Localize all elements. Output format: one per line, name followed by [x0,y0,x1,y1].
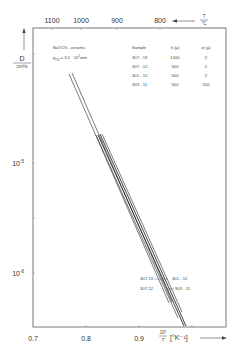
y-tick-label: 10-5 [12,159,24,167]
series-line-303-11 [100,134,186,326]
diffusion-chart: 1100 1000 900 800 T °C D cm²/s 10-5 [0,0,242,356]
plot-frame [33,28,226,327]
legend-table: Sample h (µ) ø (µ) 307 - 13 1000 2 307 -… [132,45,211,87]
line-label: 307-12 [140,286,154,291]
series-line-307-13 [69,74,169,303]
legend-header: h (µ) [171,45,180,50]
data-lines [69,73,186,326]
y-axis-label-den: cm²/s [17,64,29,69]
legend-cell: 500 [172,73,180,78]
line-label: 303 - 11 [175,286,191,291]
x-tick-label: 0.9 [134,335,144,342]
legend-cell: 2 [205,64,208,69]
sample-info: BaTiO3 - ceramic pO2 = 3.2 · 105atm [53,45,88,62]
legend-cell: 500 [172,82,180,87]
legend-cell: 301 - 12 [132,73,148,78]
material-label: BaTiO3 - ceramic [53,45,85,50]
x-tick-label: 0.8 [81,335,91,342]
top-tick-label: 900 [111,17,123,24]
top-tick-label: 1100 [44,17,59,24]
x-axis-label-den: T [162,338,165,343]
line-label: 301 - 12 [172,276,188,281]
top-axis-label-den: °C [201,21,207,26]
series-line-301-12 [98,135,184,326]
legend-cell: 1000 [170,55,180,60]
line-labels: 307-13 301 - 12 307-12 303 - 11 [140,276,191,291]
y-axis: 10-5 10-6 [12,54,35,277]
x-axis: 0.7 0.8 0.9 10³ T [°K⁻¹] [28,325,227,343]
y-axis-label: D cm²/s [13,28,31,69]
arrow-left-icon [172,19,195,22]
arrow-up-icon [22,28,25,50]
line-label: 307-13 [140,276,154,281]
legend-header: Sample [132,45,147,50]
legend-cell: 307 - 13 [132,55,148,60]
x-tick-label: 0.7 [28,335,38,342]
arrow-right-icon [200,336,227,339]
legend-cell: 2 [205,55,208,60]
x-axis-label-num: 10³ [160,330,167,335]
x-axis-label-unit: [°K⁻¹] [170,334,188,342]
top-tick-label: 800 [154,17,166,24]
condition-label: pO2 = 3.2 · 105atm [53,54,88,62]
legend-cell: 303 - 11 [132,82,148,87]
legend-cell: 500 [172,64,180,69]
top-tick-label: 1000 [73,17,89,24]
legend-cell: 307 - 12 [132,64,148,69]
legend-cell: 2 [205,73,208,78]
y-axis-label-num: D [19,55,24,62]
legend-header: ø (µ) [202,45,212,50]
legend-cell: 100 [203,82,211,87]
y-tick-label: 10-6 [12,269,24,277]
top-axis-label-num: T [203,14,206,19]
